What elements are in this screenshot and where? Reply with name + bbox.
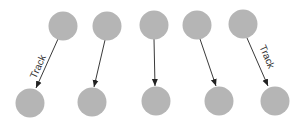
bottom-node-b3 (142, 87, 171, 116)
track-arrow-2 (94, 40, 105, 87)
bottom-node-b2 (78, 88, 107, 117)
track-label-right: Track (257, 43, 277, 71)
top-node-t3 (140, 11, 169, 40)
top-node-t5 (229, 10, 258, 39)
track-diagram: Track Track (0, 0, 305, 123)
top-node-t2 (93, 12, 122, 41)
bottom-node-b1 (16, 89, 45, 118)
bottom-node-b5 (261, 87, 290, 116)
track-arrow-3 (154, 39, 155, 86)
track-arrow-4 (200, 39, 216, 86)
nodes (16, 10, 290, 118)
edges (36, 38, 268, 88)
top-node-t4 (183, 11, 212, 40)
top-node-t1 (49, 12, 78, 41)
bottom-node-b4 (205, 87, 234, 116)
track-label-left: Track (28, 52, 49, 80)
